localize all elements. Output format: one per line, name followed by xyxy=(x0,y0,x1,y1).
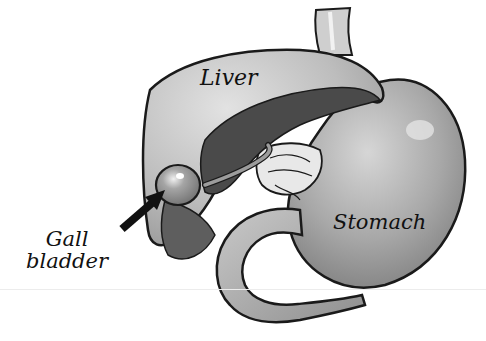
anatomy-figure: Liver Stomach Gall bladder xyxy=(0,0,486,341)
label-gallbladder-line2: bladder xyxy=(26,250,108,272)
gallbladder xyxy=(156,165,200,205)
label-gallbladder-line1: Gall xyxy=(26,228,108,250)
label-liver: Liver xyxy=(200,67,258,89)
esophagus xyxy=(315,8,352,55)
label-stomach: Stomach xyxy=(333,212,426,233)
faint-divider-line xyxy=(0,289,486,290)
label-gallbladder: Gall bladder xyxy=(26,228,108,272)
